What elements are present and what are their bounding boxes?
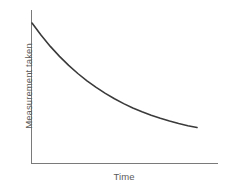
x-axis-label: Time xyxy=(0,171,228,182)
data-series-line xyxy=(32,23,197,128)
chart-container: Measurement taken Time xyxy=(0,0,228,191)
y-axis-label: Measurement taken xyxy=(22,11,36,161)
